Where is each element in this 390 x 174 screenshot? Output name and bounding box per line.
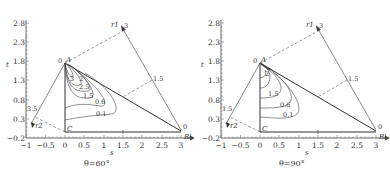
point-B-label: B: [378, 133, 384, 141]
x-tick-label: 2.5: [156, 141, 168, 150]
diagram-theta-90: 2.8 2.3 1.8 1.3 0.8 0.3 −0.2 −1 −0.5 0 0…: [195, 0, 390, 174]
contour-label: 2.5: [79, 83, 89, 91]
point-A-label: A: [65, 56, 71, 64]
dashed-line-A-r1: [260, 30, 320, 63]
r1-tick-label: 0: [378, 123, 382, 131]
point-A-label: A: [260, 56, 266, 64]
r2-axis-label: r2: [230, 122, 238, 130]
panel-caption: θ=90°: [279, 159, 305, 168]
r2-tick-label: 1.5: [222, 105, 232, 113]
r1-tick-label: 3: [319, 22, 323, 30]
x-tick-label: 1.5: [312, 141, 324, 150]
y-axis-label: t: [6, 61, 9, 69]
y-tick-label: 0.8: [208, 96, 220, 105]
y-tick-label: 2.3: [13, 38, 25, 47]
x-axis-label: s: [305, 149, 309, 157]
x-tick-label: 2: [335, 141, 340, 150]
r1-tick-label: 1.5: [153, 75, 163, 83]
dashed-line-r1-mid: [123, 80, 152, 97]
x-tick-label: −0.5: [36, 141, 54, 150]
r2-tick-label: 0: [253, 57, 257, 65]
x-tick-label: 0: [63, 141, 68, 150]
dashed-line-r1-mid: [318, 80, 347, 97]
x-tick-label: 0: [258, 141, 263, 150]
r2-axis-line: [226, 63, 260, 124]
x-tick-label: −1: [215, 141, 226, 150]
y-tick-label: 1.3: [13, 76, 25, 85]
point-B-label: B: [183, 133, 189, 141]
r1-tick-label: 1.5: [348, 75, 358, 83]
x-axis-label: s: [110, 149, 114, 157]
contour-label: 0.1: [96, 110, 106, 118]
y-tick-label: 1.8: [13, 57, 25, 66]
contour-label: 0.6: [280, 101, 290, 109]
x-tick-label: −1: [20, 141, 31, 150]
diagram-theta-60: 2.8 2.3 1.8 1.3 0.8 0.3 −0.2 −1 −0.5 0 0…: [0, 0, 195, 174]
y-tick-label: 0.8: [13, 96, 25, 105]
x-tick-label: 1: [102, 141, 107, 150]
y-tick-label: 2.8: [208, 19, 220, 28]
contour-label: 0.6: [95, 98, 105, 106]
y-tick-label: 2.3: [208, 38, 220, 47]
x-tick-label: 0.5: [78, 141, 90, 150]
r2-tick-label: 0: [58, 57, 62, 65]
r1-axis-label: r1: [111, 21, 119, 29]
contour-label: 0.1: [283, 111, 293, 119]
r1-axis-line: [123, 29, 181, 130]
contour-label: 2: [79, 75, 83, 83]
panel-theta-60: 2.8 2.3 1.8 1.3 0.8 0.3 −0.2 −1 −0.5 0 0…: [0, 0, 195, 174]
x-tick-label: 0.5: [273, 141, 285, 150]
y-tick-label: 0.3: [208, 115, 220, 124]
panel-caption: θ=60°: [84, 159, 110, 168]
y-tick-label: 1.3: [208, 76, 220, 85]
point-C-label: C: [67, 125, 73, 133]
x-tick-label: 2: [140, 141, 145, 150]
x-tick-label: 2.5: [351, 141, 363, 150]
r2-axis-label: r2: [35, 122, 43, 130]
panel-theta-90: 2.8 2.3 1.8 1.3 0.8 0.3 −0.2 −1 −0.5 0 0…: [195, 0, 390, 174]
r1-axis-label: r1: [306, 21, 314, 29]
x-tick-label: 3: [179, 141, 184, 150]
l-axis-label: l: [384, 133, 386, 141]
x-tick-label: 3: [374, 141, 379, 150]
r2-axis-line: [31, 63, 65, 124]
y-axis-label: t: [201, 61, 204, 69]
point-C-label: C: [262, 125, 268, 133]
y-tick-label: 0.3: [13, 115, 25, 124]
r1-axis-line: [318, 29, 376, 130]
contour-label: 1.5: [83, 92, 93, 100]
contour-label: 2: [265, 70, 269, 78]
y-tick-label: 2.8: [13, 19, 25, 28]
y-tick-label: 1.8: [208, 57, 220, 66]
x-tick-label: 1.5: [117, 141, 129, 150]
x-tick-label: 1: [297, 141, 302, 150]
r2-tick-label: 3.5: [27, 105, 37, 113]
dashed-line-A-r1: [65, 30, 125, 63]
x-tick-label: −0.5: [231, 141, 249, 150]
r1-tick-label: 0: [183, 123, 187, 131]
r1-tick-label: 3: [124, 22, 128, 30]
l-axis-label: l: [189, 133, 191, 141]
contour-label: 1.5: [268, 90, 278, 98]
contour-label: 3: [70, 75, 74, 83]
